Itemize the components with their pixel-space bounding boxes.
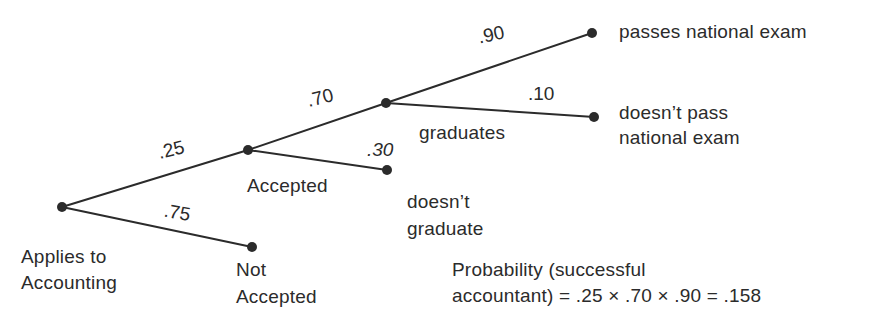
node-root bbox=[57, 202, 67, 212]
node-doesnt-graduate bbox=[382, 165, 392, 175]
node-label-doesnt-graduate-line2: graduate bbox=[407, 217, 484, 240]
node-doesnt-pass bbox=[589, 112, 599, 122]
node-label-doesnt-graduate-line1: doesn’t bbox=[407, 190, 484, 213]
node-label-graduates: graduates bbox=[419, 121, 505, 144]
node-label-doesnt-pass-line1: doesn’t pass bbox=[619, 101, 740, 124]
edge-label-accepted-doesnt-graduate: .30 bbox=[367, 139, 393, 161]
edge-graduates-doesnt-pass bbox=[386, 103, 594, 117]
node-label-root-line1: Applies to bbox=[21, 245, 117, 268]
node-label-not-accepted-line1: Not bbox=[236, 258, 317, 281]
node-accepted bbox=[243, 145, 253, 155]
probability-formula-line1: Probability (successful bbox=[452, 258, 761, 281]
node-label-root: Applies to Accounting bbox=[21, 245, 117, 294]
edge-label-root-not-accepted: .75 bbox=[162, 200, 192, 226]
node-label-passes: passes national exam bbox=[619, 20, 807, 43]
node-label-accepted: Accepted bbox=[247, 174, 328, 197]
node-label-doesnt-pass-line2: national exam bbox=[619, 126, 740, 149]
node-label-not-accepted: Not Accepted bbox=[236, 258, 317, 308]
probability-formula: Probability (successful accountant) = .2… bbox=[452, 258, 761, 307]
node-label-doesnt-graduate: doesn’t graduate bbox=[407, 190, 484, 240]
edge-root-not-accepted bbox=[62, 207, 252, 247]
edge-label-graduates-doesnt-pass: .10 bbox=[528, 83, 554, 105]
node-label-doesnt-pass: doesn’t pass national exam bbox=[619, 101, 740, 149]
node-label-root-line2: Accounting bbox=[21, 271, 117, 294]
node-graduates bbox=[381, 98, 391, 108]
node-label-not-accepted-line2: Accepted bbox=[236, 285, 317, 308]
node-passes bbox=[587, 28, 597, 38]
probability-formula-line2: accountant) = .25 × .70 × .90 = .158 bbox=[452, 284, 761, 307]
node-not-accepted bbox=[247, 242, 257, 252]
edge-root-accepted bbox=[62, 150, 248, 207]
